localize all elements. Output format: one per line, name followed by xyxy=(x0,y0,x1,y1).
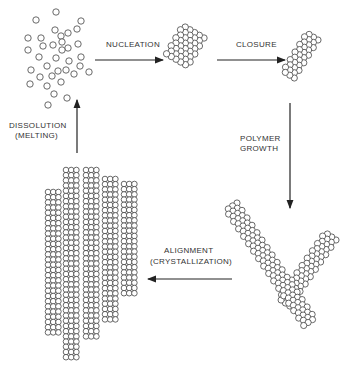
alignment-label-line1: ALIGNMENT xyxy=(164,246,213,256)
dissolution-label-line2: (MELTING) xyxy=(15,131,58,141)
polymer-growth-label-line2: GROWTH xyxy=(240,144,278,154)
nucleation-label: NUCLEATION xyxy=(106,40,160,50)
nucleus-cluster xyxy=(163,24,207,68)
alignment-label-line2: (CRYSTALLIZATION) xyxy=(150,257,232,267)
grown-polymer-rods xyxy=(225,200,339,329)
closed-polymer-segment xyxy=(282,31,321,81)
dispersed-monomers xyxy=(25,9,92,108)
aligned-crystal-bundle xyxy=(45,167,137,360)
polymerization-cycle-diagram xyxy=(0,0,341,372)
dissolution-label-line1: DISSOLUTION xyxy=(9,121,67,131)
closure-label: CLOSURE xyxy=(236,40,277,50)
polymer-growth-label-line1: POLYMER xyxy=(240,134,281,144)
